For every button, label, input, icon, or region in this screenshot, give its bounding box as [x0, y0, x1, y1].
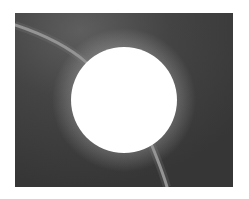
photo-canvas: [15, 13, 233, 187]
white-disk: [71, 47, 177, 153]
photograph: Grayscale photograph: bright white disk …: [15, 13, 233, 187]
